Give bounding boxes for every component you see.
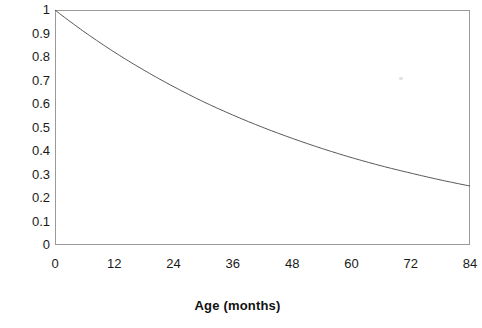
x-axis-title: Age (months): [0, 298, 475, 313]
survival-curve-svg: [55, 10, 470, 245]
x-axis-tick-labels: 012243648607284: [0, 256, 475, 278]
x-axis-tick-label: 24: [154, 256, 194, 271]
y-axis-tick-label: 0.2: [2, 191, 50, 204]
x-axis-tick-label: 36: [213, 256, 253, 271]
y-axis-tick-label: 0.5: [2, 121, 50, 134]
x-axis-tick-label: 72: [391, 256, 431, 271]
x-axis-tick-label: 12: [94, 256, 134, 271]
survival-curve-line: [55, 10, 470, 186]
y-axis-tick-label: 0.4: [2, 144, 50, 157]
y-axis-tick-label: 0.9: [2, 27, 50, 40]
x-axis-tick-label: 0: [35, 256, 75, 271]
x-axis-tick-label: 84: [450, 256, 482, 271]
y-axis-tick-label: 0.6: [2, 97, 50, 110]
y-axis-tick-label: 1: [2, 3, 50, 16]
y-axis-tick-label: 0: [2, 238, 50, 251]
y-axis-tick-label: 0.7: [2, 74, 50, 87]
y-axis-tick-labels: 10.90.80.70.60.50.40.30.20.10: [0, 0, 50, 260]
x-axis-tick-label: 60: [331, 256, 371, 271]
y-axis-tick-label: 0.3: [2, 168, 50, 181]
x-axis-tick-label: 48: [272, 256, 312, 271]
y-axis-tick-label: 0.8: [2, 50, 50, 63]
y-axis-tick-label: 0.1: [2, 215, 50, 228]
